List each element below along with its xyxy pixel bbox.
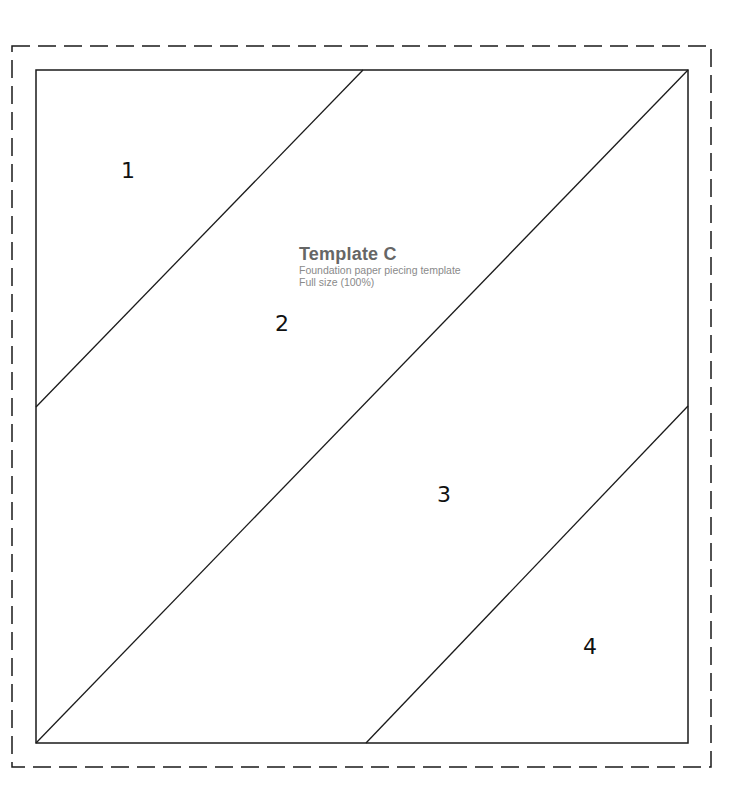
template-subtitle: Foundation paper piecing template [299, 264, 461, 276]
section-label-3: 3 [437, 484, 451, 506]
section-label-2: 2 [275, 313, 289, 335]
piecing-line-3-4 [366, 406, 688, 743]
section-label-1: 1 [121, 160, 135, 182]
piecing-line-1-2 [36, 70, 363, 407]
template-diagram [0, 0, 747, 808]
template-title: Template C [299, 244, 461, 264]
template-scale-note: Full size (100%) [299, 276, 461, 288]
template-info: Template C Foundation paper piecing temp… [299, 244, 461, 288]
section-label-4: 4 [583, 636, 597, 658]
